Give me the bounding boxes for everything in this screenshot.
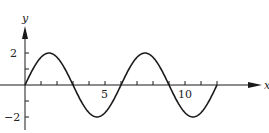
sine-chart: x y 5 10 2 −2 <box>0 0 269 133</box>
x-tick-label-5: 5 <box>101 88 108 101</box>
x-axis-arrow-icon <box>248 82 262 88</box>
x-tick-label-10: 10 <box>178 88 192 101</box>
y-axis-arrow-icon <box>22 26 28 39</box>
y-axis-label: y <box>21 12 29 25</box>
x-axis-label: x <box>264 79 269 92</box>
x-ticks <box>41 81 217 85</box>
y-tick-label-neg2: −2 <box>4 111 20 124</box>
y-tick-label-2: 2 <box>10 47 17 60</box>
